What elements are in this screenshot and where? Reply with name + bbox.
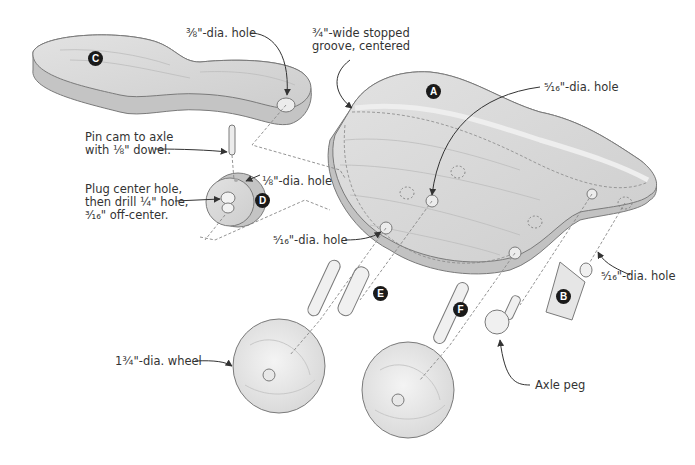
callout-body-top-hole: ⁵⁄₁₆"-dia. hole [544, 80, 619, 94]
axle-peg [485, 294, 522, 334]
part-e-axles [306, 258, 371, 320]
part-c-arm [33, 35, 311, 125]
pin-dowel [229, 125, 235, 155]
callout-groove-2: groove, centered [312, 39, 410, 53]
callout-plug-1: Plug center hole, [85, 182, 182, 196]
callout-pin-1: Pin cam to axle [85, 130, 173, 144]
callout-tail-hole: ⁵⁄₁₆"-dia. hole [601, 269, 676, 283]
callout-pin-2: with ⅛" dowel. [85, 143, 171, 157]
callout-wheel: 1¾"-dia. wheel [115, 354, 202, 368]
badge-e: E [373, 286, 388, 301]
badge-c: C [88, 51, 103, 66]
part-a-body [328, 72, 657, 274]
badge-b: B [556, 289, 571, 304]
wheel-left [233, 319, 325, 413]
callout-axle-peg: Axle peg [535, 378, 585, 392]
callout-cam-small-hole: ⅛"-dia. hole [262, 174, 332, 188]
exploded-diagram: A B C D E F ⅜"-dia. hole ¾"-wide stopped… [0, 0, 695, 465]
callout-plug-3: ³⁄₁₆" off-center. [85, 208, 168, 222]
callout-arm-hole: ⅜"-dia. hole [186, 26, 256, 40]
badge-a: A [426, 84, 441, 99]
badge-f: F [453, 302, 468, 317]
callout-body-front-hole: ⁵⁄₁₆"-dia. hole [273, 233, 348, 247]
callout-groove-1: ¾"-wide stopped [312, 26, 410, 40]
badge-d: D [255, 193, 270, 208]
callout-plug-2: then drill ¼" hole, [85, 195, 188, 209]
